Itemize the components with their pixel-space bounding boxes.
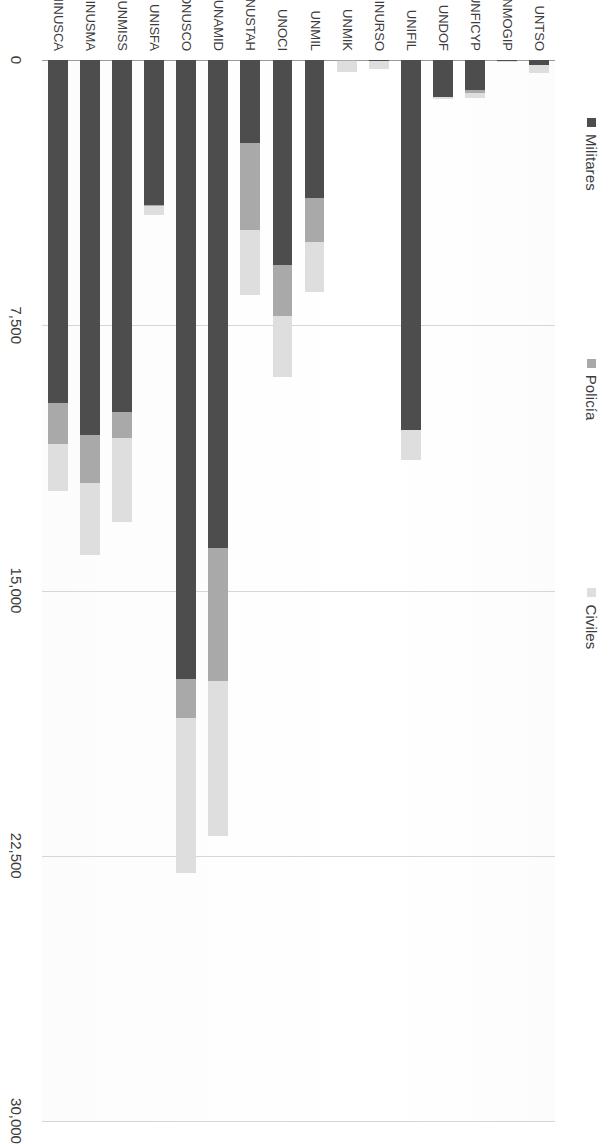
category-label: UNMOGIP bbox=[499, 0, 514, 51]
bar-track bbox=[208, 60, 228, 1121]
square-marker-icon bbox=[588, 118, 597, 127]
axis-tick-label: 7,500 bbox=[8, 306, 25, 344]
category-label: UNTSO bbox=[531, 6, 546, 52]
bar-segment-civiles[interactable] bbox=[176, 718, 196, 874]
bar-segment-civiles[interactable] bbox=[208, 681, 228, 837]
square-marker-icon bbox=[588, 359, 597, 368]
bar-segment-civiles[interactable] bbox=[305, 242, 325, 292]
bar-segment-militares[interactable] bbox=[305, 60, 325, 198]
axis-tick-label: 22,500 bbox=[8, 833, 25, 879]
bar-segment-militares[interactable] bbox=[144, 60, 164, 205]
bar-segment-civiles[interactable] bbox=[369, 61, 389, 69]
bar-segment-polica[interactable] bbox=[112, 412, 132, 439]
plot-wrapper: 07,50015,00022,50030,000UNTSOUNMOGIPUNFI… bbox=[0, 0, 569, 1133]
category-label: UNDOF bbox=[435, 5, 450, 51]
category-label: MONUSCO bbox=[179, 0, 194, 51]
bar-row[interactable]: UNMOGIP bbox=[497, 60, 517, 1121]
bar-track bbox=[240, 60, 260, 1121]
legend-item-civiles[interactable]: Civiles bbox=[584, 588, 601, 649]
bar-row[interactable]: UNFICYP bbox=[465, 60, 485, 1121]
bar-segment-polica[interactable] bbox=[208, 548, 228, 681]
bar-track bbox=[176, 60, 196, 1121]
bar-row[interactable]: MINUSCA bbox=[48, 60, 68, 1121]
bar-track bbox=[80, 60, 100, 1121]
bar-segment-civiles[interactable] bbox=[433, 97, 453, 99]
bar-row[interactable]: UNAMID bbox=[208, 60, 228, 1121]
bar-row[interactable]: UNOCI bbox=[273, 60, 293, 1121]
bar-track bbox=[465, 60, 485, 1121]
bar-segment-militares[interactable] bbox=[176, 60, 196, 679]
bar-segment-militares[interactable] bbox=[401, 60, 421, 430]
bar-segment-militares[interactable] bbox=[465, 60, 485, 90]
bar-segment-militares[interactable] bbox=[433, 60, 453, 97]
bar-row[interactable]: UNIFIL bbox=[401, 60, 421, 1121]
bar-track bbox=[305, 60, 325, 1121]
category-label: UNMISS bbox=[115, 0, 130, 51]
bar-rows: UNTSOUNMOGIPUNFICYPUNDOFUNIFILMINURSOUNM… bbox=[42, 60, 555, 1121]
bar-segment-militares[interactable] bbox=[80, 60, 100, 435]
bar-segment-militares[interactable] bbox=[208, 60, 228, 548]
bar-row[interactable]: MONUSCO bbox=[176, 60, 196, 1121]
bar-segment-militares[interactable] bbox=[273, 60, 293, 265]
bar-row[interactable]: UNISFA bbox=[144, 60, 164, 1121]
bar-segment-civiles[interactable] bbox=[112, 438, 132, 521]
bar-segment-polica[interactable] bbox=[240, 143, 260, 230]
square-marker-icon bbox=[588, 588, 597, 597]
bar-row[interactable]: UNTSO bbox=[529, 60, 549, 1121]
bar-row[interactable]: MINUSTAH bbox=[240, 60, 260, 1121]
category-label: UNOCI bbox=[275, 9, 290, 51]
category-label: UNAMID bbox=[211, 0, 226, 51]
bar-track bbox=[433, 60, 453, 1121]
bar-track bbox=[273, 60, 293, 1121]
category-label: MINURSO bbox=[371, 0, 386, 51]
bar-segment-civiles[interactable] bbox=[273, 316, 293, 376]
gridline bbox=[42, 1121, 555, 1122]
bar-segment-militares[interactable] bbox=[112, 60, 132, 412]
bar-segment-polica[interactable] bbox=[273, 265, 293, 316]
bar-segment-polica[interactable] bbox=[80, 435, 100, 483]
bar-row[interactable]: UNMIL bbox=[305, 60, 325, 1121]
chart-legend: MilitaresPolicíaCiviles bbox=[569, 0, 615, 1133]
bar-segment-civiles[interactable] bbox=[80, 483, 100, 556]
bar-segment-civiles[interactable] bbox=[465, 93, 485, 99]
bar-segment-civiles[interactable] bbox=[529, 65, 549, 73]
plot-area: 07,50015,00022,50030,000UNTSOUNMOGIPUNFI… bbox=[42, 60, 555, 1121]
bar-segment-militares[interactable] bbox=[240, 60, 260, 143]
bar-row[interactable]: UNDOF bbox=[433, 60, 453, 1121]
bar-track bbox=[48, 60, 68, 1121]
category-label: UNIFIL bbox=[403, 10, 418, 51]
bar-segment-civiles[interactable] bbox=[144, 206, 164, 215]
bar-segment-civiles[interactable] bbox=[240, 230, 260, 295]
axis-tick-label: 0 bbox=[8, 56, 25, 64]
bar-segment-civiles[interactable] bbox=[337, 61, 357, 72]
category-label: MINUSTAH bbox=[243, 0, 258, 51]
bar-track bbox=[401, 60, 421, 1121]
legend-item-label: Civiles bbox=[584, 604, 601, 649]
bar-track bbox=[497, 60, 517, 1121]
bar-track bbox=[369, 60, 389, 1121]
legend-item-polica[interactable]: Policía bbox=[584, 359, 601, 421]
bar-segment-militares[interactable] bbox=[48, 60, 68, 403]
bar-segment-civiles[interactable] bbox=[48, 444, 68, 492]
bar-track bbox=[529, 60, 549, 1121]
bar-row[interactable]: MINUSMA bbox=[80, 60, 100, 1121]
legend-item-label: Militares bbox=[584, 134, 601, 191]
bar-segment-civiles[interactable] bbox=[401, 430, 421, 461]
legend-item-militares[interactable]: Militares bbox=[584, 118, 601, 191]
bar-segment-polica[interactable] bbox=[48, 403, 68, 444]
category-label: UNFICYP bbox=[467, 0, 482, 51]
category-label: UNMIL bbox=[307, 11, 322, 51]
category-label: MINUSCA bbox=[51, 0, 66, 51]
bar-segment-polica[interactable] bbox=[305, 198, 325, 242]
bar-segment-polica[interactable] bbox=[176, 679, 196, 718]
category-label: MINUSMA bbox=[83, 0, 98, 51]
category-label: UNISFA bbox=[147, 4, 162, 51]
bar-row[interactable]: UNMISS bbox=[112, 60, 132, 1121]
bar-segment-civiles[interactable] bbox=[497, 61, 517, 62]
category-label: UNMIK bbox=[339, 9, 354, 51]
bar-row[interactable]: UNMIK bbox=[337, 60, 357, 1121]
legend-item-label: Policía bbox=[584, 375, 601, 421]
bar-row[interactable]: MINURSO bbox=[369, 60, 389, 1121]
